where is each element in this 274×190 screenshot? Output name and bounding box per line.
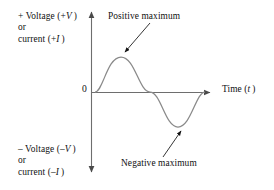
- positive-maximum-arrow: [125, 23, 150, 52]
- sine-wave-figure: + Voltage (+V ) or current (+I ) – Volta…: [0, 0, 274, 190]
- positive-axis-label-line2: or: [18, 22, 77, 33]
- negative-axis-label-line1: – Voltage (–V ): [18, 144, 76, 155]
- negative-axis-label-line2: or: [18, 155, 76, 166]
- positive-maximum-label: Positive maximum: [108, 11, 180, 22]
- negative-axis-label: – Voltage (–V ) or current (–I ): [18, 144, 76, 178]
- negative-axis-label-line3: current (–I ): [18, 167, 76, 178]
- positive-axis-label-line3: current (+I ): [18, 34, 77, 45]
- origin-label: 0: [82, 83, 87, 94]
- positive-axis-label-line1: + Voltage (+V ): [18, 11, 77, 22]
- negative-maximum-arrow: [163, 131, 181, 157]
- negative-maximum-label: Negative maximum: [121, 158, 197, 169]
- positive-axis-label: + Voltage (+V ) or current (+I ): [18, 11, 77, 45]
- time-axis-label: Time (t ): [222, 84, 255, 95]
